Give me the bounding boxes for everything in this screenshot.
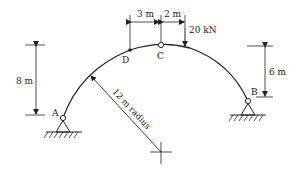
dim-dc: 3 m	[137, 9, 155, 19]
radius-line	[91, 76, 161, 152]
dim-right-height: 6 m	[269, 67, 287, 77]
point-d	[128, 48, 132, 52]
label-c: C	[157, 51, 164, 61]
support-a	[44, 115, 82, 138]
dim-c-load: 2 m	[164, 9, 182, 19]
arch-diagram: A B C D 3 m 2 m 20 kN	[0, 0, 298, 170]
hinge-c	[158, 42, 163, 47]
dim-left-height: 8 m	[16, 76, 34, 86]
support-b	[229, 98, 266, 121]
label-a: A	[51, 108, 59, 118]
center-mark	[150, 142, 172, 164]
label-d: D	[122, 55, 129, 65]
label-b: B	[251, 87, 258, 97]
top-dimension	[130, 15, 185, 48]
arch-curve	[63, 44, 248, 118]
radius-label: 12 m radius	[111, 87, 153, 131]
load-label: 20 kN	[189, 25, 217, 35]
